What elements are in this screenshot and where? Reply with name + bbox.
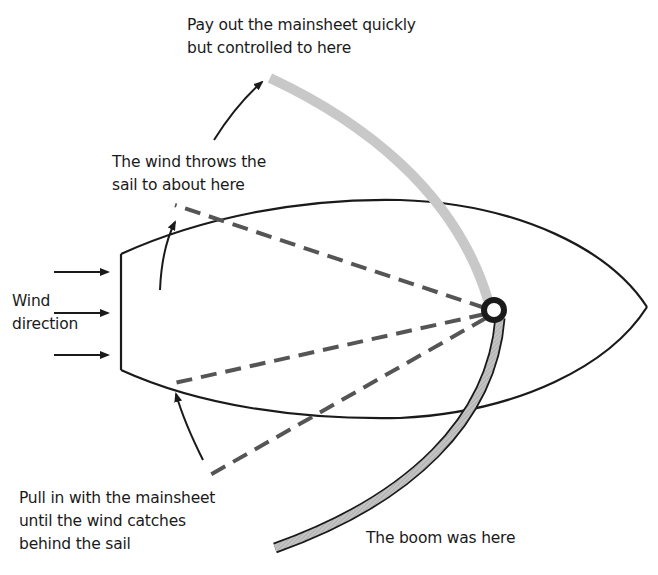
label-line: until the wind catches bbox=[19, 510, 215, 533]
mast-pivot bbox=[484, 300, 504, 320]
label-line: Pull in with the mainsheet bbox=[19, 487, 215, 510]
label-line: sail to about here bbox=[112, 174, 266, 197]
label-line: Wind bbox=[12, 290, 78, 313]
label-line: behind the sail bbox=[19, 533, 215, 556]
sail-pull-in-position-line bbox=[210, 318, 486, 475]
label-pay-out-mainsheet: Pay out the mainsheet quickly but contro… bbox=[187, 14, 416, 60]
diagram-canvas: Pay out the mainsheet quickly but contro… bbox=[0, 0, 658, 575]
label-line: but controlled to here bbox=[187, 37, 416, 60]
hull-top-gunwale bbox=[121, 200, 647, 307]
label-pull-in-mainsheet: Pull in with the mainsheet until the win… bbox=[19, 487, 215, 556]
boom-swing-arc bbox=[270, 78, 500, 548]
sail-positions bbox=[170, 205, 486, 475]
label-wind-throws-sail: The wind throws the sail to about here bbox=[112, 151, 266, 197]
sail-thrown-position-line bbox=[175, 205, 485, 308]
arrow-up-to-pay-out-icon bbox=[214, 82, 262, 140]
pivot-ring-icon bbox=[484, 300, 504, 320]
label-line: The boom was here bbox=[366, 527, 515, 550]
arrow-pull-in-icon bbox=[176, 394, 203, 460]
sail-start-position-line bbox=[170, 314, 485, 384]
boat-hull bbox=[121, 200, 647, 418]
arrow-wind-throws-icon bbox=[160, 222, 175, 290]
label-line: Pay out the mainsheet quickly bbox=[187, 14, 416, 37]
label-boom-was-here: The boom was here bbox=[366, 527, 515, 550]
motion-arrows bbox=[160, 82, 262, 460]
label-line: The wind throws the bbox=[112, 151, 266, 174]
boom-swing-upper bbox=[270, 78, 488, 300]
hull-bottom-gunwale bbox=[121, 307, 647, 418]
label-line: direction bbox=[12, 313, 78, 336]
label-wind-direction: Wind direction bbox=[12, 290, 78, 336]
